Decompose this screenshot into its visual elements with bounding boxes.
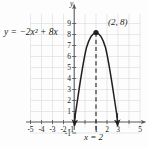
y-tick-label: 7 <box>67 41 71 50</box>
equation-text: y = −2x² + 8x <box>4 27 58 37</box>
x-tick-label: -5 <box>27 125 33 134</box>
curve-left-arrow <box>75 113 76 126</box>
x-tick-label: 5 <box>138 125 142 134</box>
vertex-point <box>93 30 98 35</box>
y-tick-label: -1 <box>65 129 71 138</box>
y-tick-label: 1 <box>67 107 71 116</box>
y-tick-label: 3 <box>67 85 71 94</box>
y-tick-label: 9 <box>67 19 71 28</box>
y-tick-label: 8 <box>67 30 71 39</box>
x-tick-label: -3 <box>49 125 55 134</box>
vertex-coordinate-label: (2, 8) <box>108 18 128 27</box>
x-tick-label: 2 <box>105 125 109 134</box>
y-tick-label: 4 <box>67 74 71 83</box>
y-tick-label: 2 <box>67 96 71 105</box>
y-tick-label: 6 <box>67 52 71 61</box>
parabola-graph-figure: -5 -4 -3 -2 -1 1 2 3 5 9 8 7 6 5 4 3 2 1… <box>0 0 148 148</box>
x-tick-label: -4 <box>38 125 44 134</box>
curve-right-arrow <box>117 113 118 126</box>
axis-of-symmetry-label: x = 2 <box>84 133 103 142</box>
y-axis-name-label: y <box>70 0 73 8</box>
equation-label: y = −2x² + 8x <box>4 28 58 38</box>
y-tick-label: 5 <box>67 63 71 72</box>
